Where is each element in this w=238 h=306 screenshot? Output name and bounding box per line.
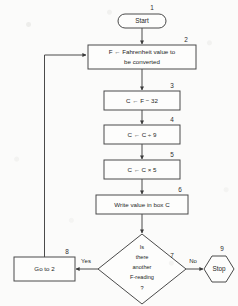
node-start[interactable]: Start bbox=[118, 14, 166, 28]
write-c-label: Write value in box C bbox=[114, 201, 170, 208]
decision-label-line3: another bbox=[133, 264, 152, 270]
node-divide-9[interactable]: C ← C ÷ 9 bbox=[104, 125, 180, 144]
stop-label: Stop bbox=[212, 265, 226, 273]
decision-label-line4: F-reading bbox=[130, 274, 154, 280]
step-number-4: 4 bbox=[170, 116, 174, 123]
flowchart-canvas: Start 1 F ← Fahrenheit value to be conve… bbox=[0, 0, 238, 306]
decision-label-line2: there bbox=[136, 254, 149, 260]
node-subtract-32[interactable]: C ← F − 32 bbox=[104, 91, 180, 110]
connector-loop-back-to-input bbox=[45, 55, 87, 257]
decision-label-line1: Is bbox=[140, 244, 145, 250]
branch-label-yes: Yes bbox=[81, 258, 91, 264]
branch-label-no: No bbox=[189, 258, 197, 264]
step-number-1: 1 bbox=[150, 4, 154, 11]
node-stop[interactable]: Stop bbox=[204, 256, 234, 282]
subtract-32-label: C ← F − 32 bbox=[126, 97, 158, 104]
multiply-5-label: C ← C × 5 bbox=[127, 166, 157, 173]
step-number-9: 9 bbox=[220, 245, 224, 252]
divide-9-label: C ← C ÷ 9 bbox=[128, 131, 157, 138]
step-number-3: 3 bbox=[170, 82, 174, 89]
step-number-6: 6 bbox=[178, 186, 182, 193]
node-write-c[interactable]: Write value in box C bbox=[96, 195, 188, 214]
step-number-7: 7 bbox=[170, 252, 174, 259]
go-to-2-label: Go to 2 bbox=[34, 265, 55, 272]
input-f-label-line1: F ← Fahrenheit value to bbox=[109, 48, 176, 55]
node-multiply-5[interactable]: C ← C × 5 bbox=[104, 160, 180, 179]
decision-label-line5: ? bbox=[140, 285, 143, 291]
start-label: Start bbox=[135, 17, 149, 24]
step-number-2: 2 bbox=[184, 36, 188, 43]
step-number-5: 5 bbox=[170, 151, 174, 158]
flowchart-page: Start 1 F ← Fahrenheit value to be conve… bbox=[0, 0, 238, 306]
node-input-f[interactable]: F ← Fahrenheit value to be converted bbox=[88, 45, 196, 69]
input-f-label-line2: be converted bbox=[124, 58, 160, 65]
node-decision[interactable]: Is there another F-reading ? bbox=[98, 234, 186, 304]
step-number-8: 8 bbox=[65, 248, 69, 255]
node-go-to-2[interactable]: Go to 2 bbox=[14, 257, 75, 281]
